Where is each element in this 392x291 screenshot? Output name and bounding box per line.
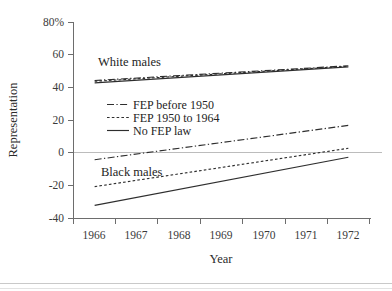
x-tick-label-1968: 1968 <box>168 229 191 241</box>
y-tick-label-40: 40 <box>53 81 65 93</box>
legend-label-no-fep-law: No FEP law <box>133 124 192 138</box>
x-tick-label-1967: 1967 <box>125 229 148 241</box>
annotation-black-males: Black males <box>101 165 163 179</box>
y-tick-label-80: 80% <box>43 16 65 28</box>
series-line-white-males-no-fep-law <box>95 67 349 83</box>
x-tick-label-1970: 1970 <box>253 229 276 241</box>
y-tick-label-neg20: -20 <box>49 179 65 191</box>
y-tick-label-60: 60 <box>53 48 65 60</box>
y-axis-title: Representation <box>6 82 20 158</box>
y-tick-label-20: 20 <box>53 114 65 126</box>
legend-label-fep-1950-to-1964: FEP 1950 to 1964 <box>133 111 220 125</box>
y-axis-ticks <box>68 23 74 219</box>
x-tick-label-1971: 1971 <box>295 229 318 241</box>
legend-label-fep-before-1950: FEP before 1950 <box>133 98 214 112</box>
x-axis-title: Year <box>209 252 233 266</box>
y-tick-label-0: 0 <box>58 146 64 158</box>
x-tick-label-1972: 1972 <box>337 229 360 241</box>
page-scan-rule-upper <box>0 283 392 284</box>
representation-by-year-line-chart: 80% 60 40 20 0 -20 -40 1966 1967 1968 19… <box>0 0 392 291</box>
x-tick-label-1969: 1969 <box>210 229 233 241</box>
x-tick-label-1966: 1966 <box>83 229 106 241</box>
chart-legend: FEP before 1950 FEP 1950 to 1964 No FEP … <box>107 98 220 138</box>
annotation-white-males: White males <box>98 55 161 69</box>
x-axis-ticks <box>74 219 370 225</box>
y-tick-label-neg40: -40 <box>49 212 65 224</box>
chart-figure: 80% 60 40 20 0 -20 -40 1966 1967 1968 19… <box>0 0 392 291</box>
page-scan-rule-lower <box>0 288 392 289</box>
